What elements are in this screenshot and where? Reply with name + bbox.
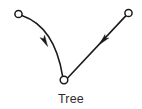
node-root[interactable] [60,76,68,84]
figure-caption: Tree [58,92,84,106]
edges-group [22,16,126,78]
tree-diagram-svg: Tree [0,0,142,109]
edge-right-leaf-to-root [68,16,126,78]
node-left-leaf[interactable] [15,10,22,17]
edge-left-leaf-to-root [22,16,63,77]
arrowhead-left-edge [40,35,48,46]
node-right-leaf[interactable] [125,9,132,16]
figure-container: Tree [0,0,142,109]
